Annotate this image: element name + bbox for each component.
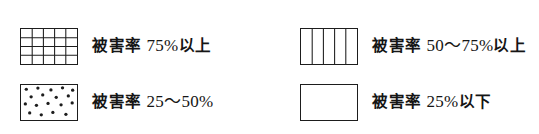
legend-row: 被害率75%以上 被害率50〜75%以上 <box>0 18 539 74</box>
legend-item-damage-under-25: 被害率25%以下 <box>300 74 492 130</box>
legend-label-prefix: 被害率 <box>92 37 142 55</box>
legend-item-label: 被害率25%以下 <box>372 93 492 111</box>
swatch-grid-pattern <box>20 28 78 65</box>
legend-item-label: 被害率50〜75%以上 <box>372 37 526 55</box>
legend-item-label: 被害率75%以上 <box>92 37 212 55</box>
legend-label-prefix: 被害率 <box>372 93 422 111</box>
legend-label-value: 25〜50% <box>147 92 214 111</box>
legend-label-value: 25% <box>427 92 459 111</box>
swatch-blank-pattern <box>300 84 358 121</box>
swatch-dot-pattern <box>20 84 78 121</box>
legend-label-suffix: 以下 <box>459 93 492 111</box>
damage-rate-legend: 被害率75%以上 被害率50〜75%以上 <box>0 0 539 134</box>
legend-item-damage-over-75: 被害率75%以上 <box>20 18 212 74</box>
legend-row: 被害率25〜50% 被害率25%以下 <box>0 74 539 130</box>
legend-item-label: 被害率25〜50% <box>92 93 213 111</box>
legend-label-suffix: 以上 <box>179 37 212 55</box>
legend-label-value: 50〜75% <box>427 36 494 55</box>
legend-item-damage-50-75: 被害率50〜75%以上 <box>300 18 526 74</box>
legend-label-prefix: 被害率 <box>372 37 422 55</box>
swatch-vertical-lines-pattern <box>300 28 358 65</box>
legend-label-suffix: 以上 <box>493 37 526 55</box>
legend-label-value: 75% <box>147 36 179 55</box>
legend-item-damage-25-50: 被害率25〜50% <box>20 74 213 130</box>
legend-label-prefix: 被害率 <box>92 93 142 111</box>
